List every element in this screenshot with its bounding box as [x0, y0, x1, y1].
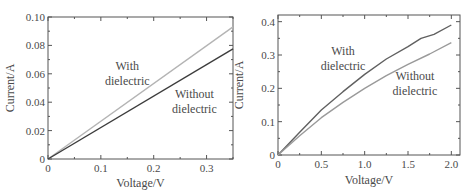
y-tick-label: 0.1 [261, 116, 275, 128]
annotation-without-dielectric: Withoutdielectric [393, 69, 438, 98]
x-tick-label: 0.3 [200, 162, 214, 174]
chart-left: 00.10.20.300.020.040.060.080.10Voltage/V… [3, 11, 233, 190]
annotation-line: dielectric [105, 74, 150, 88]
figure: 00.10.20.300.020.040.060.080.10Voltage/V… [0, 0, 475, 195]
x-tick-label: 0.2 [147, 162, 161, 174]
x-tick-label: 1.0 [358, 158, 372, 170]
y-tick-label: 0.4 [261, 16, 275, 28]
x-tick-label: 0 [275, 158, 281, 170]
annotation-line: dielectric [172, 102, 217, 116]
annotation-line: Without [396, 69, 436, 83]
annotation-with-dielectric: Withdielectric [105, 59, 150, 88]
y-axis-label: Current/A [232, 60, 246, 109]
x-tick-label: 0.5 [314, 158, 328, 170]
x-tick-label: 2.0 [444, 158, 458, 170]
y-tick-label: 0.06 [26, 68, 46, 80]
y-axis-label: Current/A [3, 63, 17, 112]
annotation-line: dielectric [321, 59, 366, 73]
chart-right: 00.51.01.52.000.10.20.30.4Voltage/VCurre… [232, 15, 460, 187]
x-axis-label: Voltage/V [345, 173, 394, 187]
annotation-line: dielectric [393, 84, 438, 98]
x-tick-label: 0 [45, 162, 51, 174]
x-tick-label: 1.5 [401, 158, 415, 170]
y-tick-label: 0.02 [26, 125, 45, 137]
annotation-without-dielectric: Withoutdielectric [172, 87, 217, 116]
x-tick-label: 0.1 [94, 162, 108, 174]
y-tick-label: 0.3 [261, 49, 275, 61]
y-tick-label: 0.10 [26, 11, 46, 23]
y-tick-label: 0 [40, 153, 46, 165]
annotation-line: With [331, 44, 355, 58]
annotation-line: With [116, 59, 140, 73]
y-tick-label: 0.08 [26, 39, 46, 51]
x-axis-label: Voltage/V [116, 176, 165, 190]
annotation-line: Without [175, 87, 215, 101]
y-tick-label: 0.2 [261, 82, 275, 94]
annotation-with-dielectric: Withdielectric [321, 44, 366, 73]
y-tick-label: 0 [270, 149, 276, 161]
y-tick-label: 0.04 [26, 96, 46, 108]
